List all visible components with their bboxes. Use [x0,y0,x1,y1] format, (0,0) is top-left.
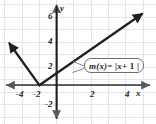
x-tick-label-4: 4 [125,90,130,99]
y-tick-label-6: 6 [48,12,53,21]
y-tick-label-4: 4 [48,37,53,46]
y-tick-label-2: 2 [48,62,53,71]
equation-callout: m(x) = | x + 1 | [84,58,144,73]
y-tick-label--2: -2 [45,100,53,109]
x-tick-label-2: 2 [90,90,95,99]
callout-function-name: m(x) [89,61,107,71]
x-tick-label--2: -2 [33,90,41,99]
callout-tail: + 1 | [122,61,139,71]
x-tick-label--4: -4 [16,90,24,99]
graph-figure: -4 -2 2 4 6 4 2 -2 x y m(x) = | x + 1 | [0,0,156,124]
y-axis-label: y [60,4,64,13]
callout-equals: = | [107,61,117,71]
x-axis-label: x [136,89,141,98]
